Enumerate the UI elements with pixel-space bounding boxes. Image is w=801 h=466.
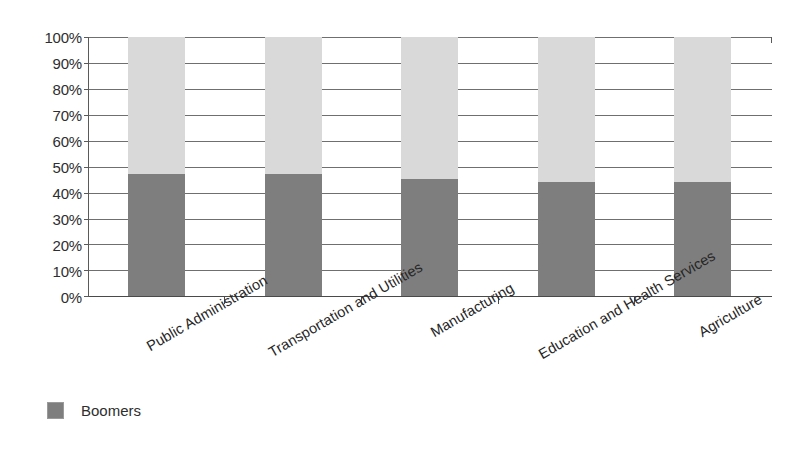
x-axis-label-agriculture: Agriculture	[696, 292, 764, 340]
chart-legend: Boomers	[47, 402, 141, 419]
stacked-bar-chart: 100% 90% 80% 70% 60% 50% 40% 30% 20% 10%…	[0, 0, 801, 466]
legend-swatch-boomers	[47, 402, 64, 419]
x-axis-label-manufacturing: Manufacturing	[428, 280, 516, 340]
x-axis-label-transportation-and-utilities: Transportation and Utilities	[266, 260, 425, 360]
x-axis-label-public-administration: Public Administration	[144, 273, 270, 354]
x-axis-label-education-and-health-services: Education and Health Services	[536, 248, 718, 362]
legend-label-boomers: Boomers	[81, 403, 141, 418]
x-axis-labels: Public Administration Transportation and…	[0, 0, 801, 466]
